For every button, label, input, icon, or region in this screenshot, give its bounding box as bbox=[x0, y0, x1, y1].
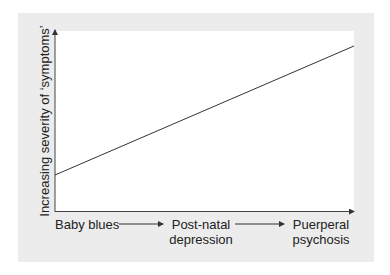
x-label-pp-line2: psychosis bbox=[290, 232, 352, 247]
x-label-puerperal-psychosis: Puerperal psychosis bbox=[290, 217, 352, 247]
x-label-pnd-line1: Post-natal bbox=[168, 217, 234, 232]
x-label-pnd-line2: depression bbox=[168, 232, 234, 247]
x-label-pp-line1: Puerperal bbox=[290, 217, 352, 232]
x-label-post-natal-depression: Post-natal depression bbox=[168, 217, 234, 247]
x-label-baby-blues-text: Baby blues bbox=[55, 217, 119, 232]
severity-line bbox=[55, 46, 354, 175]
x-label-baby-blues: Baby blues bbox=[55, 217, 119, 232]
y-axis-label: Increasing severity of ‘symptoms’ bbox=[37, 25, 52, 216]
